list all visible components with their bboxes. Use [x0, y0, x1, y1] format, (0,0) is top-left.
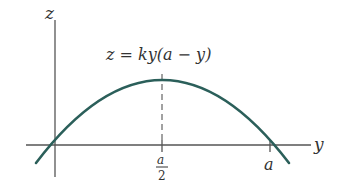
y-axis-label: y	[313, 134, 324, 154]
tick-label-a-half-den: 2	[158, 169, 166, 183]
parabola-diagram: z y z = ky(a − y) a 2 a	[0, 0, 347, 184]
tick-label-a-half-num: a	[157, 153, 164, 167]
equation-label: z = ky(a − y)	[105, 45, 211, 64]
tick-label-a: a	[264, 155, 274, 174]
z-axis-label: z	[44, 3, 55, 23]
